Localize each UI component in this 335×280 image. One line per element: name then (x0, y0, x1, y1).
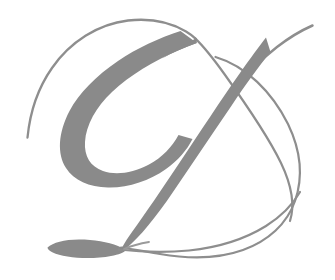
ornamental-letter-d: Decorative calligraphic capital letter D… (0, 0, 335, 280)
artwork-canvas: D Decorative calligraphic capital letter… (0, 0, 335, 280)
